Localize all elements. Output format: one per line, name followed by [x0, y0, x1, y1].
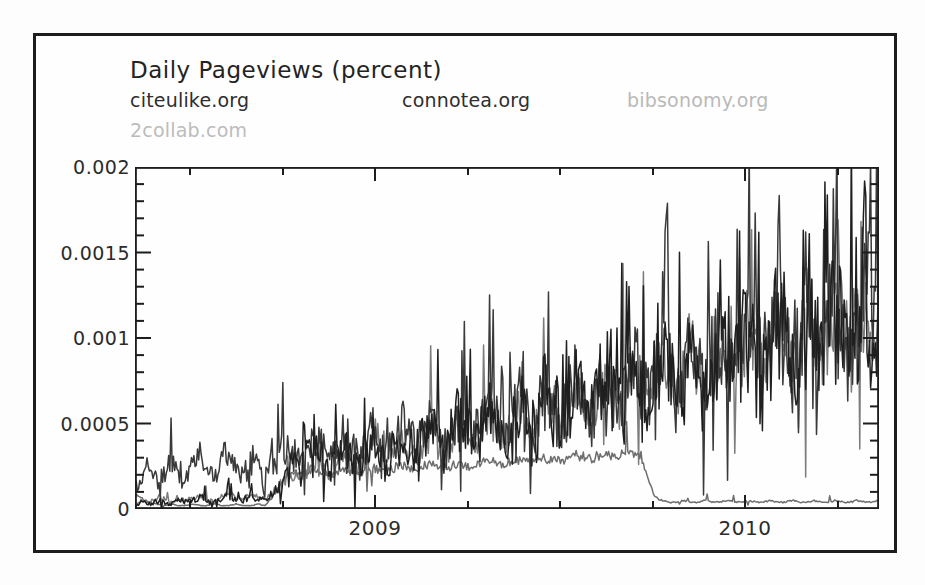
- plot-area: [135, 167, 879, 509]
- chart-title: Daily Pageviews (percent): [130, 55, 890, 85]
- series-line-connotea-org: [135, 167, 879, 509]
- legend-row-2: 2collab.com: [130, 115, 890, 145]
- legend-row-1: citeulike.org connotea.org bibsonomy.org: [130, 85, 890, 115]
- legend-item-bibsonomy[interactable]: bibsonomy.org: [627, 85, 768, 115]
- x-tick-label-2010: 2010: [719, 516, 772, 540]
- y-tick-label-0p0005: 0.0005: [61, 413, 130, 435]
- series-layer: [135, 167, 879, 509]
- x-axis-tick-labels: 2009 2010: [135, 512, 879, 546]
- y-tick-label-0p0015: 0.0015: [61, 242, 130, 264]
- y-tick-label-0p002: 0.002: [73, 156, 130, 178]
- legend-item-2collab[interactable]: 2collab.com: [130, 115, 247, 145]
- legend-item-citeulike[interactable]: citeulike.org: [130, 85, 249, 115]
- x-tick-label-2009: 2009: [349, 516, 402, 540]
- plot-svg: [135, 167, 879, 509]
- legend-item-connotea[interactable]: connotea.org: [402, 85, 530, 115]
- chart-header: Daily Pageviews (percent) citeulike.org …: [130, 55, 890, 145]
- screenshot-root: Daily Pageviews (percent) citeulike.org …: [0, 0, 925, 585]
- y-tick-label-0p001: 0.001: [73, 327, 130, 349]
- y-tick-label-0: 0: [117, 498, 130, 520]
- y-axis-tick-labels: 0.002 0.0015 0.001 0.0005 0: [38, 167, 130, 509]
